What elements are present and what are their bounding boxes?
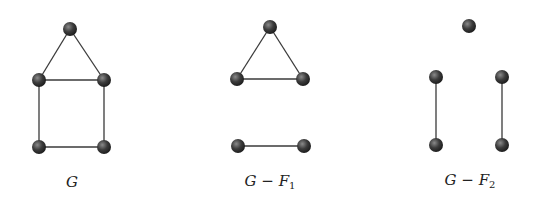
graph-node <box>462 19 476 33</box>
graph-node <box>429 138 443 152</box>
graph-node <box>296 72 310 86</box>
graph-edge <box>237 27 270 79</box>
caption-g-minus-f2: G − F2 <box>445 171 496 190</box>
graph-node <box>230 72 244 86</box>
graph-node <box>97 73 111 87</box>
graph-node <box>32 140 46 154</box>
graph-node <box>231 139 245 153</box>
edges <box>39 27 502 147</box>
graph-node <box>97 140 111 154</box>
caption-g: G <box>66 173 78 191</box>
graph-edge <box>70 29 104 80</box>
graph-figure: G G − F1 G − F2 <box>0 0 538 201</box>
graph-edge <box>39 29 70 80</box>
graph-node <box>263 20 277 34</box>
graph-node <box>297 139 311 153</box>
graph-node <box>32 73 46 87</box>
graph-node <box>495 70 509 84</box>
graph-edge <box>270 27 303 79</box>
caption-g-minus-f1: G − F1 <box>245 172 296 191</box>
graph-node <box>63 22 77 36</box>
graph-node <box>429 70 443 84</box>
graph-node <box>495 138 509 152</box>
